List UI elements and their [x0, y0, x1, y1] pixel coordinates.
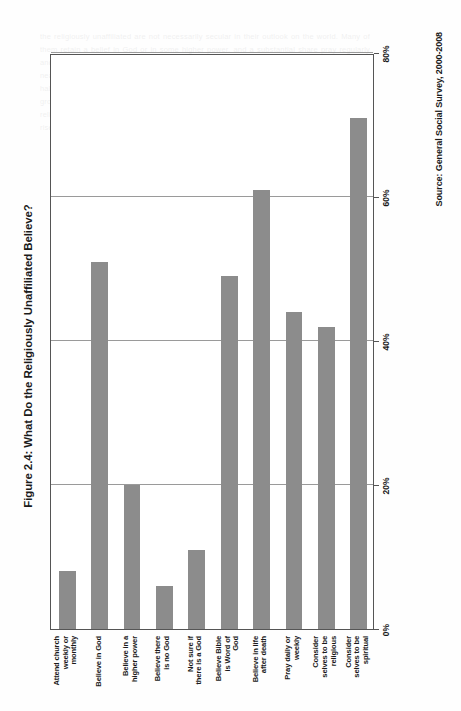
category-label: Considerselves to bereligious: [312, 636, 338, 688]
category-label-line: Believe in a: [121, 636, 130, 676]
category-label-line: Attend church: [52, 636, 61, 686]
x-axis-tick-label: 60%: [381, 189, 391, 206]
category-label-line: Believe in life: [251, 636, 260, 682]
category-label-line: is Word of God: [222, 636, 240, 671]
category-label-line: Believe there: [153, 636, 162, 681]
category-label-line: Believe Bible: [214, 636, 223, 681]
bar: [188, 549, 205, 628]
category-label-line: selves to be: [320, 636, 329, 678]
bar-row: [58, 55, 75, 629]
bar: [285, 312, 302, 629]
category-label-line: higher power: [130, 636, 139, 682]
category-label-line: there is a God: [194, 636, 203, 685]
bar: [350, 117, 367, 628]
figure-source-note: Source: General Social Survey, 2000-2008: [434, 32, 444, 206]
x-axis: 0%20%40%60%80%: [374, 54, 400, 630]
category-label: Believe in lifeafter death: [252, 636, 269, 688]
bar: [123, 485, 140, 629]
x-axis-tick: [374, 629, 379, 630]
bar: [253, 189, 270, 628]
plot-area: [50, 54, 374, 630]
category-label: Believe in ahigher power: [122, 636, 139, 688]
category-label-line: weekly: [292, 636, 301, 660]
bar-row: [91, 55, 108, 629]
bar: [155, 585, 172, 628]
figure-page: the religiously unaffiliated are not nec…: [0, 0, 461, 711]
bar-row: [155, 55, 172, 629]
x-axis-tick-label: 80%: [381, 45, 391, 62]
category-label-line: Believe in God: [93, 636, 102, 687]
bar: [91, 261, 108, 628]
category-label: Considerselves to bespiritual: [344, 636, 370, 688]
x-axis-tick-label: 20%: [381, 477, 391, 494]
bar-row: [350, 55, 367, 629]
x-axis-tick: [374, 341, 379, 342]
category-label-line: Consider: [311, 636, 320, 668]
category-label: Attend churchweekly ormonthly: [53, 636, 79, 688]
category-label-line: Pray daily or: [283, 636, 292, 680]
x-axis-tick-label: 40%: [381, 333, 391, 350]
category-label: Believe thereis no God: [154, 636, 171, 688]
category-label-line: Consider: [343, 636, 352, 668]
bar-row: [220, 55, 237, 629]
x-axis-tick: [374, 53, 379, 54]
category-label-line: spiritual: [361, 636, 370, 664]
category-label-line: religious: [328, 636, 337, 666]
rotated-figure: Figure 2.4: What Do the Religiously Unaf…: [16, 26, 446, 686]
bar-row: [123, 55, 140, 629]
category-label-line: after death: [259, 636, 268, 673]
category-label-line: monthly: [69, 636, 78, 664]
bar: [317, 326, 334, 628]
category-label-line: is no God: [162, 636, 171, 670]
category-label: Not sure ifthere is a God: [187, 636, 204, 688]
bar-row: [188, 55, 205, 629]
bar: [58, 571, 75, 629]
gridline: [51, 52, 373, 53]
x-axis-tick: [374, 485, 379, 486]
bar: [220, 276, 237, 629]
bar-row: [253, 55, 270, 629]
x-axis-tick: [374, 197, 379, 198]
category-label: Believe Bibleis Word of God: [215, 636, 241, 688]
bar-row: [317, 55, 334, 629]
figure-title: Figure 2.4: What Do the Religiously Unaf…: [22, 26, 34, 686]
bar-row: [285, 55, 302, 629]
x-axis-tick-label: 0%: [381, 623, 391, 635]
category-label-line: Not sure if: [186, 636, 195, 672]
category-label-line: selves to be: [352, 636, 361, 678]
category-label-line: weekly or: [60, 636, 69, 669]
y-axis-category-labels: Attend churchweekly ormonthlyBelieve in …: [50, 632, 374, 686]
category-label: Pray daily orweekly: [284, 636, 301, 688]
category-label: Believe in God: [94, 636, 103, 688]
